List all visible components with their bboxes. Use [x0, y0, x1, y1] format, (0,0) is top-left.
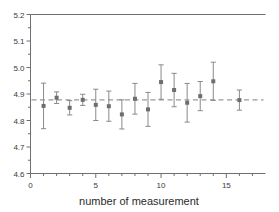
x-tick-label: 5	[94, 181, 99, 190]
data-marker	[237, 98, 241, 102]
data-point-errorbar	[41, 83, 46, 129]
data-marker	[211, 79, 215, 83]
data-marker	[42, 104, 46, 108]
data-point-errorbar	[211, 62, 216, 100]
x-tick-label: 10	[157, 181, 166, 190]
data-marker	[146, 107, 150, 111]
data-point-errorbar	[172, 73, 177, 106]
data-marker	[159, 80, 163, 84]
data-marker	[68, 106, 72, 110]
tick-marks	[27, 15, 253, 179]
x-axis-title: number of measurement	[79, 195, 199, 207]
data-marker	[81, 98, 85, 102]
y-tick-label: 4.9	[13, 90, 25, 99]
data-marker	[55, 96, 59, 100]
data-point-errorbar	[80, 94, 85, 105]
data-marker	[94, 103, 98, 107]
data-point-errorbar	[158, 65, 163, 99]
data-point-errorbar	[106, 91, 111, 121]
x-tick-label: 15	[222, 181, 231, 190]
data-point-errorbar	[237, 90, 242, 110]
chart-figure: 4.64.74.84.95.05.15.2051015 number of me…	[0, 0, 279, 212]
y-tick-label: 5.1	[13, 37, 25, 46]
data-marker	[198, 94, 202, 98]
y-tick-label: 4.8	[13, 117, 25, 126]
data-point-errorbar	[198, 82, 203, 111]
chart-canvas: 4.64.74.84.95.05.15.2051015 number of me…	[0, 0, 279, 212]
y-tick-label: 4.7	[13, 143, 25, 152]
data-point-errorbar	[145, 92, 150, 126]
data-series-measurements	[41, 62, 242, 129]
data-point-errorbar	[93, 89, 98, 120]
data-marker	[120, 112, 124, 116]
data-point-errorbar	[54, 92, 59, 104]
data-marker	[133, 97, 137, 101]
data-marker	[107, 104, 111, 108]
y-tick-label: 4.6	[13, 170, 25, 179]
data-marker	[185, 101, 189, 105]
data-point-errorbar	[67, 101, 72, 115]
data-point-errorbar	[185, 83, 190, 122]
y-tick-label: 5.0	[13, 64, 25, 73]
y-tick-label: 5.2	[13, 11, 25, 20]
data-point-errorbar	[119, 100, 124, 129]
x-tick-label: 0	[28, 181, 33, 190]
data-marker	[172, 88, 176, 92]
data-point-errorbar	[132, 83, 137, 114]
